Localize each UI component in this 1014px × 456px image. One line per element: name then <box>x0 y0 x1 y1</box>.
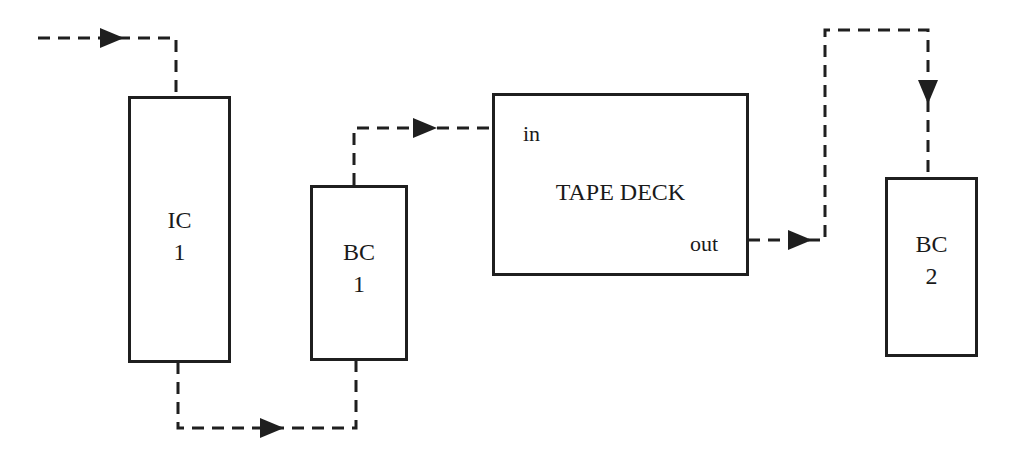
in-port-label: in <box>523 121 540 147</box>
ic1-number: 1 <box>131 236 228 268</box>
arrow-right-icon <box>260 418 284 438</box>
ic1-to-bc1-line <box>178 360 356 428</box>
bc1-label: BC <box>313 236 405 268</box>
bc2-block: BC 2 <box>885 177 978 357</box>
bc1-to-tapedeck-line <box>354 128 492 185</box>
ic1-label: IC <box>131 204 228 236</box>
arrow-right-icon <box>413 118 437 138</box>
bc2-number: 2 <box>888 260 975 292</box>
arrow-right-icon <box>100 28 124 48</box>
out-port-label: out <box>690 231 718 257</box>
tape-deck-title: TAPE DECK <box>495 176 746 208</box>
arrow-right-icon <box>788 230 812 250</box>
bc1-block: BC 1 <box>310 185 408 361</box>
ic1-block: IC 1 <box>128 96 231 363</box>
bc1-number: 1 <box>313 268 405 300</box>
arrow-down-icon <box>918 80 938 104</box>
tape-deck-block: in TAPE DECK out <box>492 93 749 276</box>
bc2-label: BC <box>888 228 975 260</box>
input-to-ic1-line <box>38 38 176 96</box>
